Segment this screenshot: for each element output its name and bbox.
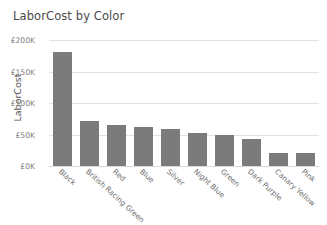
y-axis-tick-label: £100K [0, 99, 35, 108]
x-axis-tick-label: Red [110, 167, 126, 183]
y-axis-tick-label: £50K [0, 130, 35, 139]
y-axis-tick-label: £200K [0, 36, 35, 45]
bars-group [49, 40, 319, 166]
bar[interactable] [134, 127, 154, 166]
y-axis-tick-label: £150K [0, 67, 35, 76]
bar-slot [215, 40, 235, 166]
chart-container: LaborCost by Color LaborCost £0K£50K£100… [0, 0, 327, 225]
chart-title: LaborCost by Color [13, 9, 124, 23]
bar-slot [269, 40, 289, 166]
x-axis-tick-label: Green [218, 167, 241, 189]
x-axis-tick-label: Silver [164, 167, 185, 188]
bar[interactable] [296, 153, 316, 166]
bar[interactable] [215, 135, 235, 167]
x-axis-tick-label: Black [56, 167, 77, 187]
bar[interactable] [107, 125, 127, 166]
bar-slot [53, 40, 73, 166]
bar[interactable] [53, 52, 73, 166]
bar[interactable] [269, 153, 289, 166]
bar-slot [107, 40, 127, 166]
y-axis-tick-label: £0K [0, 162, 35, 171]
bar-slot [242, 40, 262, 166]
bar-slot [134, 40, 154, 166]
x-axis-tick-label: Pink [299, 167, 316, 184]
bar-slot [80, 40, 100, 166]
bar[interactable] [242, 139, 262, 166]
bar-slot [188, 40, 208, 166]
bar-slot [296, 40, 316, 166]
x-axis-tick-label: Blue [137, 167, 155, 185]
x-axis-tick-group: BlackBritish Racing GreenRedBlueSilverNi… [49, 167, 319, 225]
bar[interactable] [188, 133, 208, 166]
bar[interactable] [161, 129, 181, 166]
bar-slot [161, 40, 181, 166]
bar[interactable] [80, 121, 100, 166]
plot-area: £0K£50K£100K£150K£200K [49, 40, 319, 166]
